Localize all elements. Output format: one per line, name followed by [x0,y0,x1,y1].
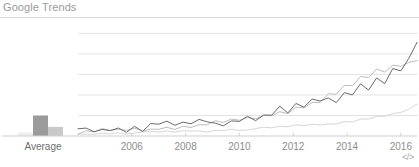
average-bar-series-dark [33,115,48,136]
series-line-series-mid [78,61,417,135]
chart-series-group [78,42,417,134]
x-axis-label-2016: 2016 [390,141,412,152]
x-axis-label-2006: 2006 [121,141,143,152]
chart-gridlines [78,33,417,115]
average-axis-label: Average [24,141,61,152]
average-bar-series-pale [18,133,33,136]
average-bar-series-mid [48,127,63,136]
google-trends-widget: Google Trends Average 200620082010201220… [0,0,419,167]
x-axis-label-2008: 2008 [174,141,196,152]
average-bar-chart [18,115,63,136]
x-axis-label-2012: 2012 [282,141,304,152]
x-axis-label-2014: 2014 [336,141,358,152]
x-axis-label-2010: 2010 [228,141,250,152]
code-embed-icon[interactable]: </> [402,152,414,162]
